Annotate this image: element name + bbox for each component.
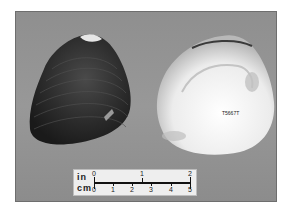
specimen-photo: T5667T in cm 0 1 2 0 1 2 3 4 5 [15,11,277,202]
inch-label-1: 1 [140,170,144,177]
tick-inch-1 [142,178,143,183]
cm-label-0: 0 [92,186,96,193]
scale-bar: in cm 0 1 2 0 1 2 3 4 5 [73,169,197,196]
cm-label-3: 3 [149,186,153,193]
unit-centimeters: cm [77,183,92,193]
cm-label-5: 5 [188,186,192,193]
cm-label-1: 1 [111,186,115,193]
shell-exterior-valve [22,29,134,151]
shell-interior-valve [152,32,277,160]
cm-label-2: 2 [130,186,134,193]
inch-label-2: 2 [188,170,192,177]
inch-label-0: 0 [92,170,96,177]
cm-label-4: 4 [169,186,173,193]
specimen-label: T5667T [222,110,239,116]
unit-inches: in [77,172,87,182]
